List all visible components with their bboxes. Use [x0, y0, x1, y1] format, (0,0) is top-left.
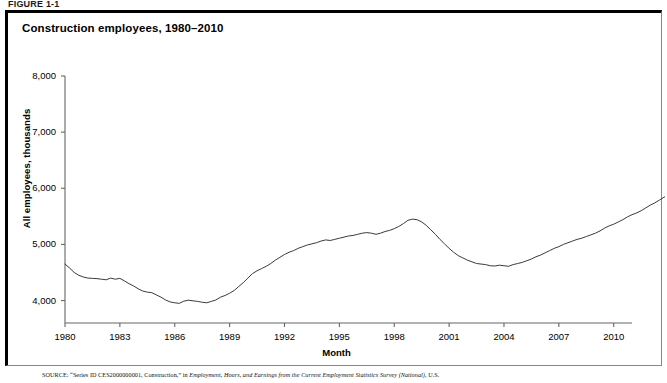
- x-axis-tick-label: 1983: [100, 331, 140, 342]
- figure-number-label: FIGURE 1-1: [8, 0, 60, 9]
- x-axis-tick-label: 2007: [539, 331, 579, 342]
- x-axis-tick-label: 2001: [429, 331, 469, 342]
- y-axis-tick-label: 6,000: [16, 182, 56, 193]
- x-axis-tick-label: 2004: [484, 331, 524, 342]
- figure-frame: Construction employees, 1980–2010 All em…: [5, 10, 662, 366]
- x-axis-tick-label: 1992: [264, 331, 304, 342]
- source-note-label: SOURCE:: [42, 371, 68, 378]
- x-axis-tick-label: 1995: [319, 331, 359, 342]
- x-axis-tick-label: 1986: [155, 331, 195, 342]
- y-axis-tick-label: 5,000: [16, 238, 56, 249]
- chart-plot-area: All employees, thousands Month 4,0005,00…: [8, 13, 665, 369]
- y-axis-tick-label: 4,000: [16, 295, 56, 306]
- line-chart-svg: [8, 13, 665, 369]
- source-note-intro: “Series ID CES2000000001, Construction,”…: [68, 371, 189, 378]
- y-axis-tick-label: 8,000: [16, 70, 56, 81]
- x-axis-tick-label: 1989: [210, 331, 250, 342]
- x-axis-tick-label: 1998: [374, 331, 414, 342]
- source-note-publication: Employment, Hours, and Earnings from the…: [189, 371, 425, 378]
- source-note: SOURCE: “Series ID CES2000000001, Constr…: [42, 371, 662, 380]
- source-note-tail: , U.S.: [425, 371, 439, 378]
- x-axis-tick-label: 2010: [594, 331, 634, 342]
- x-axis-tick-label: 1980: [45, 331, 85, 342]
- y-axis-title: All employees, thousands: [21, 99, 32, 239]
- y-axis-tick-label: 7,000: [16, 126, 56, 137]
- x-axis-title: Month: [8, 347, 665, 358]
